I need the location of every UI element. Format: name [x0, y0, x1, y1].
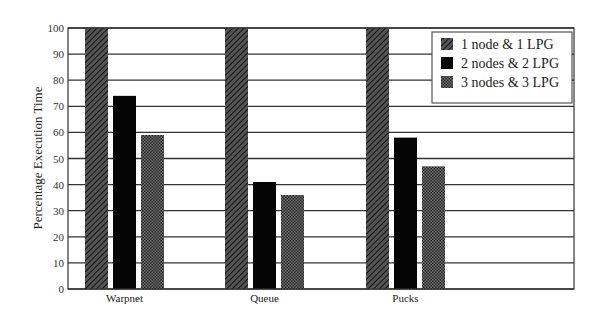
legend-swatch-3 [441, 76, 453, 88]
bar-pucks-series-3 [422, 166, 445, 289]
bar-pucks-series-2 [394, 138, 417, 289]
bar-queue-series-2 [253, 182, 276, 289]
bar-queue-series-1 [225, 28, 248, 289]
y-axis-ticks: 0102030405060708090100 [48, 22, 65, 295]
legend-label-2: 2 nodes & 2 LPG [461, 56, 559, 71]
y-tick-label: 90 [53, 48, 65, 60]
x-category-label: Queue [250, 292, 279, 304]
y-tick-label: 40 [53, 179, 65, 191]
x-category-label: Pucks [392, 292, 418, 304]
y-tick-label: 70 [53, 100, 65, 112]
bar-warpnet-series-1 [85, 28, 108, 289]
x-axis-categories: WarpnetQueuePucks [106, 292, 419, 304]
y-tick-label: 60 [53, 126, 65, 138]
y-axis-label: Percentage Execution Time [30, 86, 45, 229]
legend-swatch-1 [441, 38, 453, 50]
legend: 1 node & 1 LPG2 nodes & 2 LPG3 nodes & 3… [432, 32, 572, 103]
y-tick-label: 80 [53, 74, 65, 86]
y-tick-label: 10 [53, 257, 65, 269]
y-tick-label: 50 [53, 153, 65, 165]
y-tick-label: 20 [53, 231, 65, 243]
y-tick-label: 30 [53, 205, 65, 217]
bar-queue-series-3 [281, 195, 304, 289]
y-tick-label: 100 [48, 22, 65, 34]
bar-warpnet-series-2 [113, 96, 136, 289]
legend-label-3: 3 nodes & 3 LPG [461, 75, 559, 90]
bar-chart: 0102030405060708090100 WarpnetQueuePucks… [0, 0, 601, 321]
legend-swatch-2 [441, 57, 453, 69]
y-tick-label: 0 [59, 283, 65, 295]
legend-label-1: 1 node & 1 LPG [461, 37, 554, 52]
x-category-label: Warpnet [106, 292, 143, 304]
bar-warpnet-series-3 [141, 135, 164, 289]
bar-pucks-series-1 [366, 28, 389, 289]
